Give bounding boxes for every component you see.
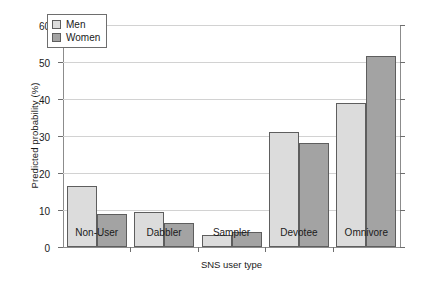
x-axis-tick bbox=[265, 247, 266, 252]
legend-swatch-men-icon bbox=[52, 20, 61, 29]
y-axis-tick-label: 30 bbox=[39, 132, 50, 143]
x-axis-label-omnivore: Omnivore bbox=[345, 227, 388, 238]
bar-chart: Predicted probability (%) 0102030405060 … bbox=[0, 0, 424, 297]
y-axis-tick-right bbox=[400, 62, 405, 63]
y-axis-tick-label: 0 bbox=[44, 243, 50, 254]
x-axis-tick bbox=[198, 247, 199, 252]
y-axis-tick-right bbox=[400, 173, 405, 174]
x-axis-label-dabbler: Dabbler bbox=[147, 227, 182, 238]
x-axis-label-sampler: Sampler bbox=[213, 227, 250, 238]
plot-area: 0102030405060 bbox=[63, 25, 400, 247]
legend-label-women: Women bbox=[66, 31, 100, 44]
y-axis-tick-right bbox=[400, 25, 405, 26]
y-axis-tick-right bbox=[400, 247, 405, 248]
bar-omnivore-men bbox=[336, 103, 366, 247]
x-axis-tick bbox=[130, 247, 131, 252]
x-axis-label-devotee: Devotee bbox=[280, 227, 317, 238]
y-axis-tick-label: 20 bbox=[39, 169, 50, 180]
gridline bbox=[63, 247, 400, 248]
x-axis-tick bbox=[333, 247, 334, 252]
y-axis-tick-right bbox=[400, 99, 405, 100]
legend-item-women: Women bbox=[52, 31, 100, 44]
bar-omnivore-women bbox=[366, 56, 396, 247]
legend-item-men: Men bbox=[52, 18, 100, 31]
y-axis-title: Predicted probability (%) bbox=[29, 36, 40, 236]
bar-series-group bbox=[63, 25, 400, 247]
y-axis-tick: 0 bbox=[58, 247, 63, 248]
legend-label-men: Men bbox=[66, 18, 85, 31]
x-axis-label-non-user: Non-User bbox=[75, 227, 118, 238]
legend-swatch-women-icon bbox=[52, 33, 61, 42]
y-axis-tick-label: 10 bbox=[39, 206, 50, 217]
y-axis-tick-label: 40 bbox=[39, 95, 50, 106]
x-axis-title: SNS user type bbox=[63, 259, 400, 270]
chart-legend: Men Women bbox=[47, 14, 107, 48]
y-axis-tick-right bbox=[400, 210, 405, 211]
y-axis-tick-label: 50 bbox=[39, 58, 50, 69]
y-axis-tick-right bbox=[400, 136, 405, 137]
